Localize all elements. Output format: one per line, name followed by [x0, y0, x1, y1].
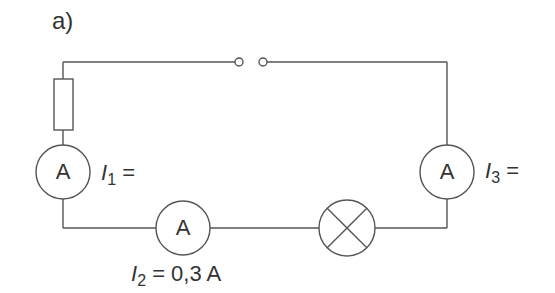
switch-terminal-left	[235, 58, 243, 66]
resistor	[54, 79, 73, 130]
ammeter-3-symbol: A	[419, 161, 475, 183]
current-subscript: 3	[491, 169, 500, 186]
circuit-diagram	[0, 0, 555, 293]
figure-label: a)	[52, 9, 73, 33]
current-label-3: I3 =	[485, 160, 519, 186]
switch-terminal-right	[259, 58, 267, 66]
current-subscript: 2	[137, 272, 146, 289]
current-value: =	[122, 160, 135, 185]
current-label-1: I1 =	[101, 162, 135, 188]
current-value: = 0,3 A	[152, 261, 221, 286]
current-label-2: I2 = 0,3 A	[131, 263, 221, 289]
lamp	[319, 200, 375, 256]
current-subscript: 1	[107, 171, 116, 188]
current-value: =	[506, 158, 519, 183]
ammeter-1-symbol: A	[35, 161, 91, 183]
ammeter-2-symbol: A	[155, 217, 211, 239]
